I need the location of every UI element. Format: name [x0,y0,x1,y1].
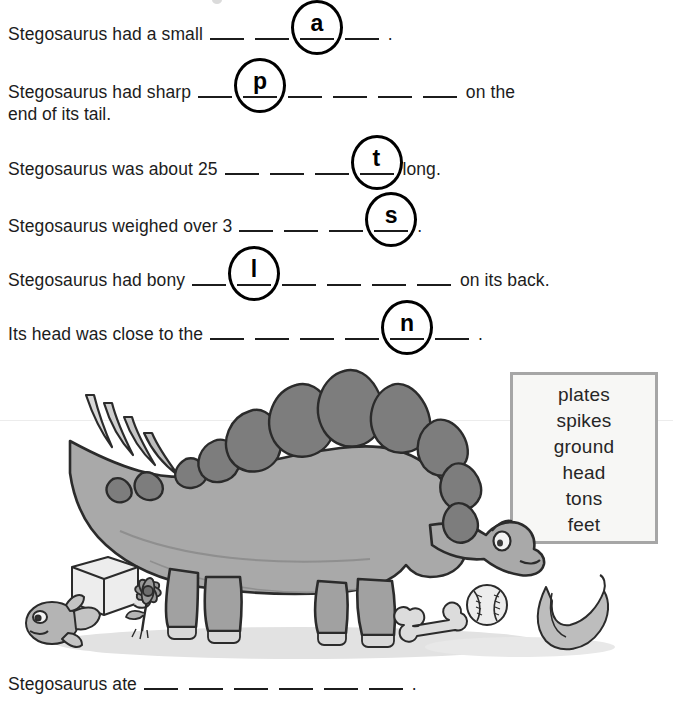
blank[interactable] [324,673,358,690]
sentence-7-prefix: Stegosaurus ate [8,674,137,694]
sentence-4-prefix: Stegosaurus weighed over 3 [8,216,232,236]
blank[interactable] [239,215,273,232]
dino-pupil [497,539,503,546]
blank[interactable] [279,673,313,690]
blank[interactable] [315,158,349,175]
sentence-2-continuation: end of its tail. [8,104,111,125]
blank[interactable] [198,81,232,98]
stegosaurus-illustration [0,355,673,665]
blank[interactable] [288,81,322,98]
blank[interactable] [378,81,412,98]
blank[interactable] [417,269,451,286]
circled-blank[interactable]: a [300,23,334,40]
dino-toe [362,635,394,647]
blank[interactable] [329,215,363,232]
dino-leg-front-far [315,581,348,633]
sentence-5: Stegosaurus had bony l on its back. [8,268,550,293]
worksheet-page: Stegosaurus had a small a . Stegosaurus … [0,0,673,706]
sentence-1: Stegosaurus had a small a . [8,22,393,47]
blank[interactable] [345,323,379,340]
blank[interactable] [255,23,289,40]
blank[interactable] [284,215,318,232]
blank[interactable] [300,323,334,340]
blank[interactable] [372,269,406,286]
blank[interactable] [270,158,304,175]
dino-leg-back-far [166,569,198,627]
sentence-5-prefix: Stegosaurus had bony [8,270,185,290]
dino-toe [318,633,346,645]
sentence-6-prefix: Its head was close to the [8,324,203,344]
circled-blank[interactable]: p [243,81,277,98]
sentence-7-suffix: . [412,674,417,694]
circled-letter: l [251,258,258,281]
sentence-2-suffix: on the [466,82,515,102]
sentence-7: Stegosaurus ate . [8,672,417,697]
dino-toe [168,627,196,639]
blank[interactable] [423,81,457,98]
sentence-1-prefix: Stegosaurus had a small [8,24,203,44]
sentence-5-suffix: on its back. [460,270,550,290]
sentence-1-suffix: . [388,24,393,44]
circled-letter: p [253,70,267,93]
circled-letter: s [385,204,398,227]
blank[interactable] [234,673,268,690]
blank[interactable] [327,269,361,286]
blank[interactable] [192,269,226,286]
blank[interactable] [282,269,316,286]
blank[interactable] [144,673,178,690]
sentence-3-suffix: long. [402,159,440,179]
blank[interactable] [435,323,469,340]
blank[interactable] [333,81,367,98]
circled-blank[interactable]: n [390,323,424,340]
sentence-4: Stegosaurus weighed over 3 s . [8,214,422,239]
sentence-3-prefix: Stegosaurus was about 25 [8,159,218,179]
blank[interactable] [225,158,259,175]
sentence-4-suffix: . [417,216,422,236]
banana-icon [538,575,608,649]
circled-blank[interactable]: t [360,158,394,175]
circled-blank[interactable]: s [374,215,408,232]
back-plate [443,503,478,542]
baseball-icon [467,585,507,625]
blank[interactable] [255,323,289,340]
sentence-3: Stegosaurus was about 25 t long. [8,157,441,182]
dino-leg-back-near [205,577,242,631]
blank[interactable] [345,23,379,40]
blank[interactable] [189,673,223,690]
sentence-2-prefix: Stegosaurus had sharp [8,82,191,102]
circled-letter: n [400,312,414,335]
dino-leg-front-near [357,579,395,635]
scan-smudge [212,0,222,4]
sentence-6: Its head was close to the n . [8,322,483,347]
blank[interactable] [210,323,244,340]
blank[interactable] [369,673,403,690]
circled-letter: t [373,147,381,170]
dino-toe [208,631,240,643]
circled-blank[interactable]: l [237,269,271,286]
circled-letter: a [310,12,323,35]
sentence-6-suffix: . [478,324,483,344]
sentence-2: Stegosaurus had sharp p on the [8,80,515,105]
back-plate [106,478,131,502]
blank[interactable] [210,23,244,40]
